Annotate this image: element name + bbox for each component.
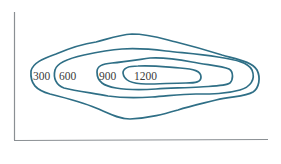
x-axis-line xyxy=(14,140,268,141)
contour-900 xyxy=(97,58,233,90)
contour-diagram: 300 600 900 1200 xyxy=(0,0,281,164)
contour-label-1200: 1200 xyxy=(134,70,157,82)
contour-label-600: 600 xyxy=(59,70,76,82)
contour-svg xyxy=(0,0,281,164)
contour-label-900: 900 xyxy=(99,70,116,82)
contour-label-300: 300 xyxy=(33,70,50,82)
